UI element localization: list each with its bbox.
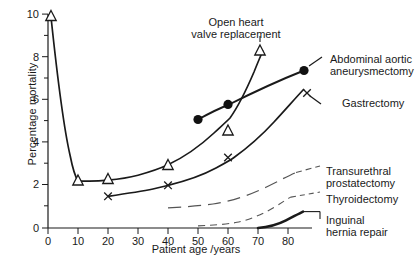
y-tick-10: 10 xyxy=(27,8,39,20)
x-tick-10: 10 xyxy=(72,235,84,247)
leader-gastrectomy xyxy=(310,96,321,104)
gastrectomy-curve xyxy=(108,89,304,196)
y-tick-0: 0 xyxy=(33,222,39,234)
series-abdominal-aortic-aneurysmectomy xyxy=(193,66,308,124)
label-hernia-line1: Inguinal xyxy=(326,214,388,226)
label-transurethral-prostatectomy: Transurethral prostatectomy xyxy=(326,165,395,190)
label-hernia-line2: hernia repair xyxy=(326,226,388,238)
label-aaa-line2: aneurysmectomy xyxy=(330,65,414,77)
abdominal-aortic-aneurysmectomy-markers xyxy=(193,66,308,124)
label-gastrectomy: Gastrectomy xyxy=(342,97,404,109)
inguinal-hernia-repair-curve xyxy=(258,212,303,228)
label-aaa-line1: Abdominal aortic xyxy=(330,53,414,65)
series-thyroidectomy xyxy=(198,197,291,226)
leader-transurethral xyxy=(296,166,320,173)
label-open-heart-line2: valve replacement xyxy=(191,28,280,40)
leader-thyroidectomy xyxy=(291,192,320,197)
x-axis-ticks xyxy=(48,228,288,234)
label-tup-line2: prostatectomy xyxy=(326,177,395,189)
series-transurethral-prostatectomy xyxy=(168,173,296,208)
open-heart-valve-replacement-curve xyxy=(51,17,263,181)
gastrectomy-markers xyxy=(104,89,311,200)
label-open-heart-valve-replacement: Open heart valve replacement xyxy=(191,16,280,41)
thyroidectomy-curve xyxy=(198,197,291,226)
label-inguinal-hernia-repair: Inguinal hernia repair xyxy=(326,214,388,239)
x-tick-0: 0 xyxy=(45,235,51,247)
y-axis-title: Percentage mortality xyxy=(26,34,38,194)
label-open-heart-line1: Open heart xyxy=(191,16,280,28)
y-axis-ticks xyxy=(42,14,48,228)
label-tup-line1: Transurethral xyxy=(326,165,395,177)
series-gastrectomy xyxy=(104,89,311,200)
x-axis-title: Patient age /years xyxy=(96,243,296,255)
series-inguinal-hernia-repair xyxy=(258,212,303,228)
leader-abdominal-aortic xyxy=(309,57,322,66)
label-thyroidectomy: Thyroidectomy xyxy=(326,193,398,205)
transurethral-prostatectomy-curve xyxy=(168,173,296,208)
mortality-vs-age-chart: 10 8 6 4 2 0 0 10 xyxy=(0,0,417,262)
label-abdominal-aortic-aneurysmectomy: Abdominal aortic aneurysmectomy xyxy=(330,53,414,78)
